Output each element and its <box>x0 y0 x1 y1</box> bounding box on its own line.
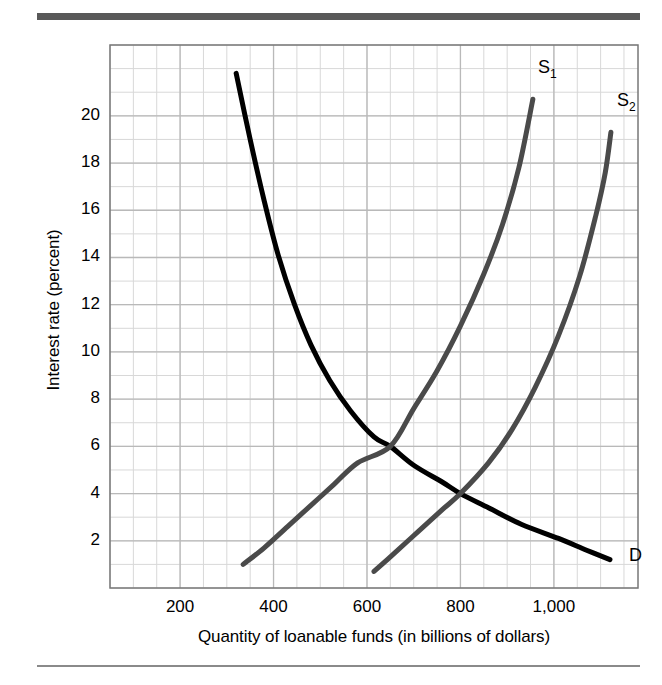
curve-label-s1: S1 <box>538 57 557 81</box>
x-tick-label: 1,000 <box>519 597 589 617</box>
figure-container: 2468101214161820 2004006008001,000 DS1S2… <box>0 0 662 685</box>
y-tick-label: 2 <box>60 530 100 550</box>
x-tick-label: 400 <box>239 597 309 617</box>
y-tick-label: 12 <box>60 294 100 314</box>
y-tick-label: 20 <box>60 105 100 125</box>
y-tick-label: 8 <box>60 388 100 408</box>
curve-label-s2: S2 <box>617 90 636 114</box>
chart-plot-area: 2468101214161820 2004006008001,000 DS1S2… <box>0 0 662 685</box>
x-tick-label: 600 <box>332 597 402 617</box>
y-axis-title: Interest rate (percent) <box>44 160 64 460</box>
y-tick-label: 10 <box>60 341 100 361</box>
x-axis-title: Quantity of loanable funds (in billions … <box>110 627 638 647</box>
plot-background <box>110 45 638 588</box>
x-tick-label: 200 <box>145 597 215 617</box>
curve-label-d: D <box>629 545 642 566</box>
y-tick-label: 4 <box>60 483 100 503</box>
y-tick-label: 14 <box>60 246 100 266</box>
y-tick-label: 18 <box>60 152 100 172</box>
y-tick-label: 6 <box>60 435 100 455</box>
y-tick-label: 16 <box>60 199 100 219</box>
x-tick-label: 800 <box>425 597 495 617</box>
